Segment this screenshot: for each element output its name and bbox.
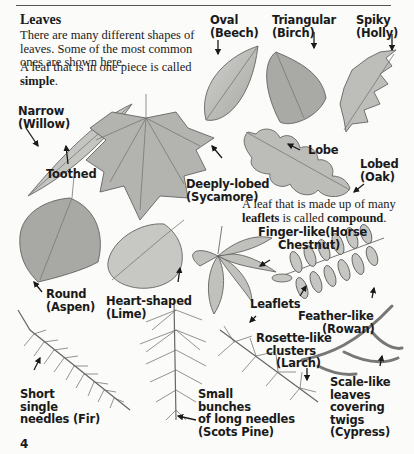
label-heart-shaped: Heart-shaped(Lime) — [106, 295, 192, 320]
arrow-feather — [372, 288, 374, 298]
label-triangular: Triangular(Birch) — [272, 14, 336, 39]
arrow-round — [34, 282, 42, 292]
spiky-holly-leaf-icon — [340, 50, 396, 132]
label-lobe: Lobe — [308, 144, 338, 157]
page-number: 4 — [20, 437, 28, 451]
arrow-leaflets — [250, 316, 256, 322]
label-finger-like: Finger-like(HorseChestnut) — [258, 226, 367, 251]
label-deeply-lobed: Deeply-lobed(Sycamore) — [186, 178, 269, 203]
heart-shaped-lime-leaf-icon — [108, 220, 184, 288]
label-rosette-like: Rosette-likeclusters(Larch) — [256, 332, 332, 370]
arrow-narrow — [26, 128, 38, 146]
triangular-birch-leaf-icon — [267, 52, 326, 124]
arrow-fir — [34, 358, 40, 370]
arrow-deeply-lobed — [212, 146, 222, 158]
label-toothed: Toothed — [46, 168, 96, 181]
label-scale-like: Scale-likeleavescoveringtwigs(Cypress) — [330, 376, 390, 439]
arrow-lobed — [354, 184, 364, 192]
label-narrow: Narrow(Willow) — [18, 105, 70, 130]
label-lobed: Lobed(Oak) — [360, 158, 399, 183]
label-long-needles: Smallbunchesof long needles(Scots Pine) — [198, 388, 295, 438]
label-leaflets: Leaflets — [250, 298, 300, 311]
label-round: Round(Aspen) — [46, 288, 95, 313]
label-spiky: Spiky(Holly) — [356, 14, 398, 39]
arrow-scots-pine — [178, 416, 196, 420]
oval-beech-leaf-icon — [204, 46, 258, 120]
label-oval: Oval(Beech) — [210, 14, 258, 39]
label-short-needles: Shortsingleneedles (Fir) — [20, 388, 100, 426]
